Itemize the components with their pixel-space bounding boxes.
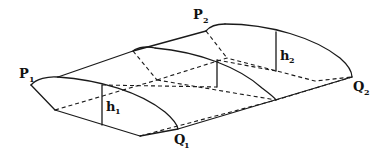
label-p2: P 2 [193, 7, 209, 25]
dash-ridge-mid-down [133, 51, 157, 80]
dash-ridge-p2-down [206, 31, 227, 58]
dash-base-mid-right [157, 58, 352, 81]
cap-p2 [206, 24, 225, 31]
label-p1: P 1 [19, 66, 35, 84]
label-q1-sub: 1 [184, 140, 190, 150]
edge-bottom-front [55, 110, 140, 136]
label-h2-sub: 2 [289, 55, 295, 65]
edge-bottom-right [140, 77, 352, 136]
canopy-surface-diagram: P 1 P 2 Q 1 Q 2 h 1 h 2 [0, 0, 388, 156]
arc-middle [155, 48, 276, 100]
label-q2: Q 2 [353, 79, 370, 97]
solid-edges [31, 24, 352, 136]
label-p1-sub: 1 [29, 74, 35, 84]
edge-left-end [31, 85, 55, 110]
edge-top-ridge [58, 31, 206, 77]
label-p2-main: P [193, 7, 203, 22]
cap-p1 [31, 77, 58, 85]
label-q1: Q 1 [174, 132, 190, 150]
label-h1: h 1 [106, 99, 121, 116]
label-p2-sub: 2 [203, 15, 209, 25]
label-q2-sub: 2 [364, 87, 370, 97]
label-q2-main: Q [353, 79, 364, 94]
label-h2: h 2 [280, 48, 295, 65]
label-p1-main: P [19, 66, 29, 81]
label-h1-sub: 1 [115, 106, 121, 116]
